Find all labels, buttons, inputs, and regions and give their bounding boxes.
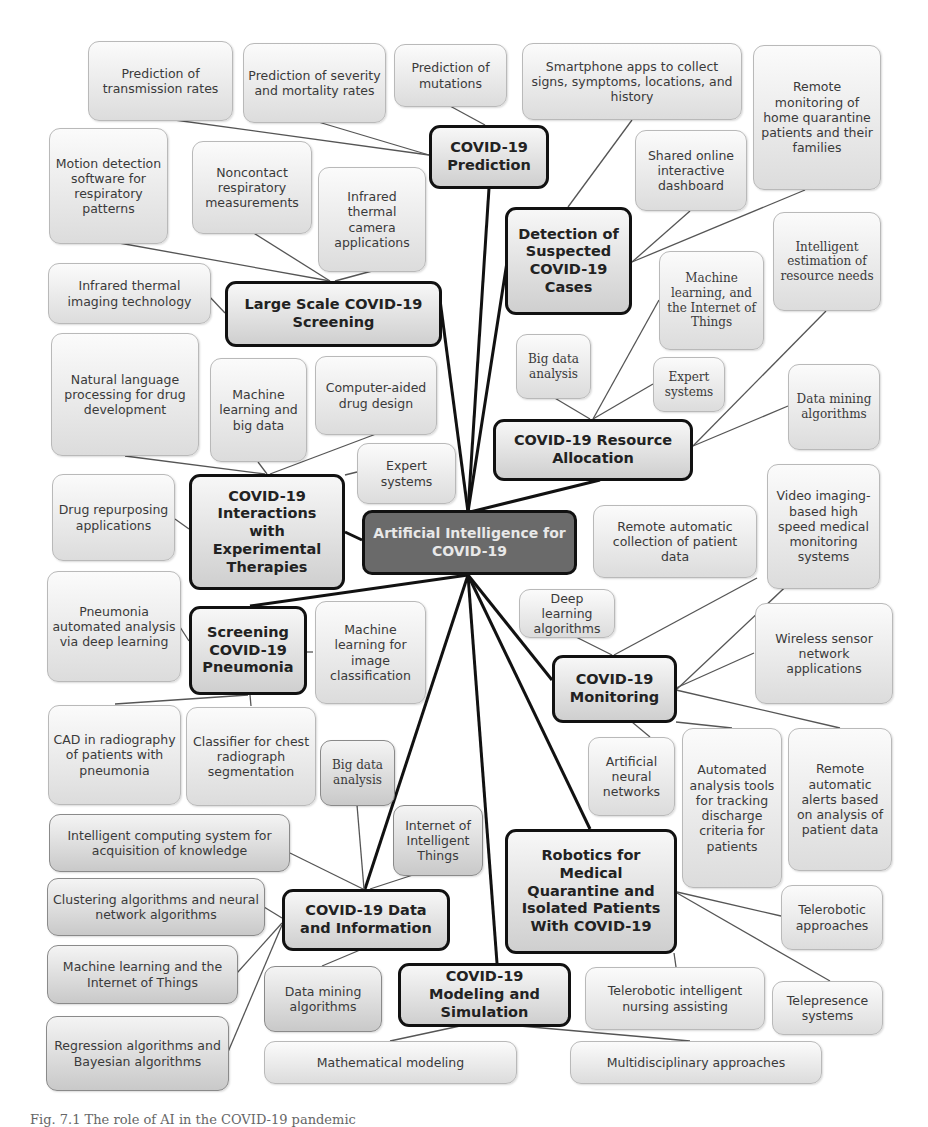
hub-resource: COVID-19 Resource Allocation: [493, 419, 693, 481]
leaf-therapies-cadd: Computer-aided drug design: [315, 356, 437, 435]
leaf-screening-motion: Motion detection software for respirator…: [49, 128, 168, 244]
leaf-monitoring-remote-collection: Remote automatic collection of patient d…: [593, 505, 757, 578]
hub-data: COVID-19 Data and Information: [282, 889, 450, 951]
hub-therapies: COVID-19 Interactions with Experimental …: [189, 474, 345, 590]
leaf-data-ml-iot: Machine learning and the Internet of Thi…: [47, 945, 238, 1004]
leaf-monitoring-deep-learning: Deep learning algorithms: [519, 589, 615, 638]
hub-label: Robotics for Medical Quarantine and Isol…: [514, 847, 668, 935]
leaf-therapies-drug-repurposing: Drug repurposing applications: [52, 474, 175, 561]
leaf-data-big-data: Big data analysis: [320, 740, 395, 806]
leaf-pneumonia-cad: CAD in radiography of patients with pneu…: [48, 705, 181, 805]
leaf-monitoring-video-imaging: Video imaging-based high speed medical m…: [767, 464, 880, 589]
hub-label: Detection of Suspected COVID-19 Cases: [514, 226, 623, 297]
figure-caption: Fig. 7.1 The role of AI in the COVID-19 …: [30, 1112, 356, 1127]
leaf-robotics-telepresence: Telepresence systems: [772, 981, 883, 1035]
leaf-data-mining: Data mining algorithms: [264, 966, 382, 1032]
leaf-therapies-nlp: Natural language processing for drug dev…: [51, 333, 199, 456]
hub-prediction: COVID-19 Prediction: [429, 125, 549, 189]
leaf-monitoring-discharge-tools: Automated analysis tools for tracking di…: [682, 728, 782, 888]
hub-label: COVID-19 Interactions with Experimental …: [198, 488, 336, 576]
hub-label: COVID-19 Modeling and Simulation: [407, 968, 562, 1021]
hub-detection: Detection of Suspected COVID-19 Cases: [505, 207, 632, 315]
leaf-modeling-mathematical: Mathematical modeling: [264, 1041, 517, 1084]
hub-robotics: Robotics for Medical Quarantine and Isol…: [505, 829, 677, 954]
leaf-screening-infrared-imaging: Infrared thermal imaging technology: [48, 263, 211, 324]
leaf-pneumonia-image-classification: Machine learning for image classificatio…: [315, 601, 426, 704]
leaf-screening-noncontact: Noncontact respiratory measurements: [192, 141, 312, 234]
leaf-resource-ml-iot: Machine learning, and the Internet of Th…: [659, 251, 764, 350]
leaf-therapies-ml-big-data: Machine learning and big data: [210, 358, 307, 462]
leaf-robotics-nursing: Telerobotic intelligent nursing assistin…: [585, 967, 765, 1030]
leaf-prediction-transmission: Prediction of transmission rates: [88, 41, 233, 121]
hub-label: Large Scale COVID-19 Screening: [234, 296, 433, 331]
leaf-resource-big-data: Big data analysis: [516, 334, 591, 399]
hub-label: COVID-19 Data and Information: [291, 902, 441, 937]
hub-modeling: COVID-19 Modeling and Simulation: [398, 963, 571, 1027]
leaf-screening-infrared-camera: Infrared thermal camera applications: [318, 167, 426, 272]
leaf-data-iot: Internet of Intelligent Things: [393, 805, 483, 876]
hub-label: COVID-19 Monitoring: [561, 671, 668, 706]
hub-screening: Large Scale COVID-19 Screening: [225, 281, 442, 347]
hub-label: COVID-19 Prediction: [438, 139, 540, 174]
leaf-modeling-multidisciplinary: Multidisciplinary approaches: [570, 1041, 822, 1084]
leaf-robotics-telerobotic: Telerobotic approaches: [781, 885, 883, 950]
leaf-prediction-severity: Prediction of severity and mortality rat…: [243, 43, 386, 123]
leaf-data-intelligent-computing: Intelligent computing system for acquisi…: [49, 814, 290, 872]
leaf-resource-expert: Expert systems: [653, 357, 725, 412]
leaf-detection-dashboard: Shared online interactive dashboard: [635, 130, 747, 211]
leaf-detection-smartphone: Smartphone apps to collect signs, sympto…: [522, 43, 742, 120]
hub-monitoring: COVID-19 Monitoring: [552, 655, 677, 723]
leaf-data-regression: Regression algorithms and Bayesian algor…: [46, 1016, 229, 1091]
leaf-detection-remote-monitoring: Remote monitoring of home quarantine pat…: [753, 45, 881, 190]
leaf-monitoring-alerts: Remote automatic alerts based on analysi…: [788, 728, 892, 871]
leaf-resource-estimation: Intelligent estimation of resource needs: [773, 212, 881, 311]
hub-label: COVID-19 Resource Allocation: [502, 432, 684, 467]
leaf-pneumonia-deep-learning: Pneumonia automated analysis via deep le…: [47, 571, 181, 682]
hub-pneumonia: Screening COVID-19 Pneumonia: [189, 606, 307, 695]
hub-label: Screening COVID-19 Pneumonia: [198, 624, 298, 677]
leaf-therapies-expert: Expert systems: [357, 443, 456, 504]
leaf-monitoring-ann: Artificial neural networks: [588, 737, 675, 816]
mind-map: Artificial Intelligence for COVID-19 COV…: [0, 0, 928, 1127]
center-label: Artificial Intelligence for COVID-19: [371, 525, 568, 559]
leaf-prediction-mutations: Prediction of mutations: [394, 44, 507, 107]
leaf-monitoring-wireless-sensor: Wireless sensor network applications: [755, 603, 893, 704]
center-node: Artificial Intelligence for COVID-19: [362, 510, 577, 575]
leaf-resource-data-mining: Data mining algorithms: [788, 364, 880, 450]
leaf-data-clustering: Clustering algorithms and neural network…: [47, 878, 265, 936]
leaf-pneumonia-classifier: Classifier for chest radiograph segmenta…: [186, 707, 316, 806]
